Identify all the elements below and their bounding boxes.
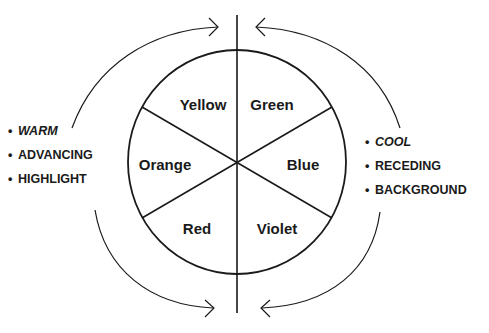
segment-label-green: Green [250, 96, 293, 113]
cool-item-background: •BACKGROUND [365, 178, 467, 202]
cool-properties-list: •COOL •RECEDING •BACKGROUND [365, 130, 467, 202]
warm-item-highlight: •HIGHLIGHT [8, 167, 93, 191]
warm-item-warm: •WARM [8, 119, 93, 143]
cool-item-receding: •RECEDING [365, 154, 467, 178]
segment-label-orange: Orange [139, 156, 192, 173]
bullet-icon: • [365, 130, 375, 154]
bullet-icon: • [8, 167, 18, 191]
warm-properties-list: •WARM •ADVANCING •HIGHLIGHT [8, 119, 93, 191]
segment-label-red: Red [183, 220, 211, 237]
bullet-icon: • [8, 119, 18, 143]
segment-label-violet: Violet [257, 220, 298, 237]
bullet-icon: • [365, 178, 375, 202]
cool-item-cool: •COOL [365, 130, 467, 154]
bullet-icon: • [8, 143, 18, 167]
segment-label-blue: Blue [287, 156, 320, 173]
bullet-icon: • [365, 154, 375, 178]
segment-label-yellow: Yellow [180, 96, 227, 113]
warm-item-advancing: •ADVANCING [8, 143, 93, 167]
